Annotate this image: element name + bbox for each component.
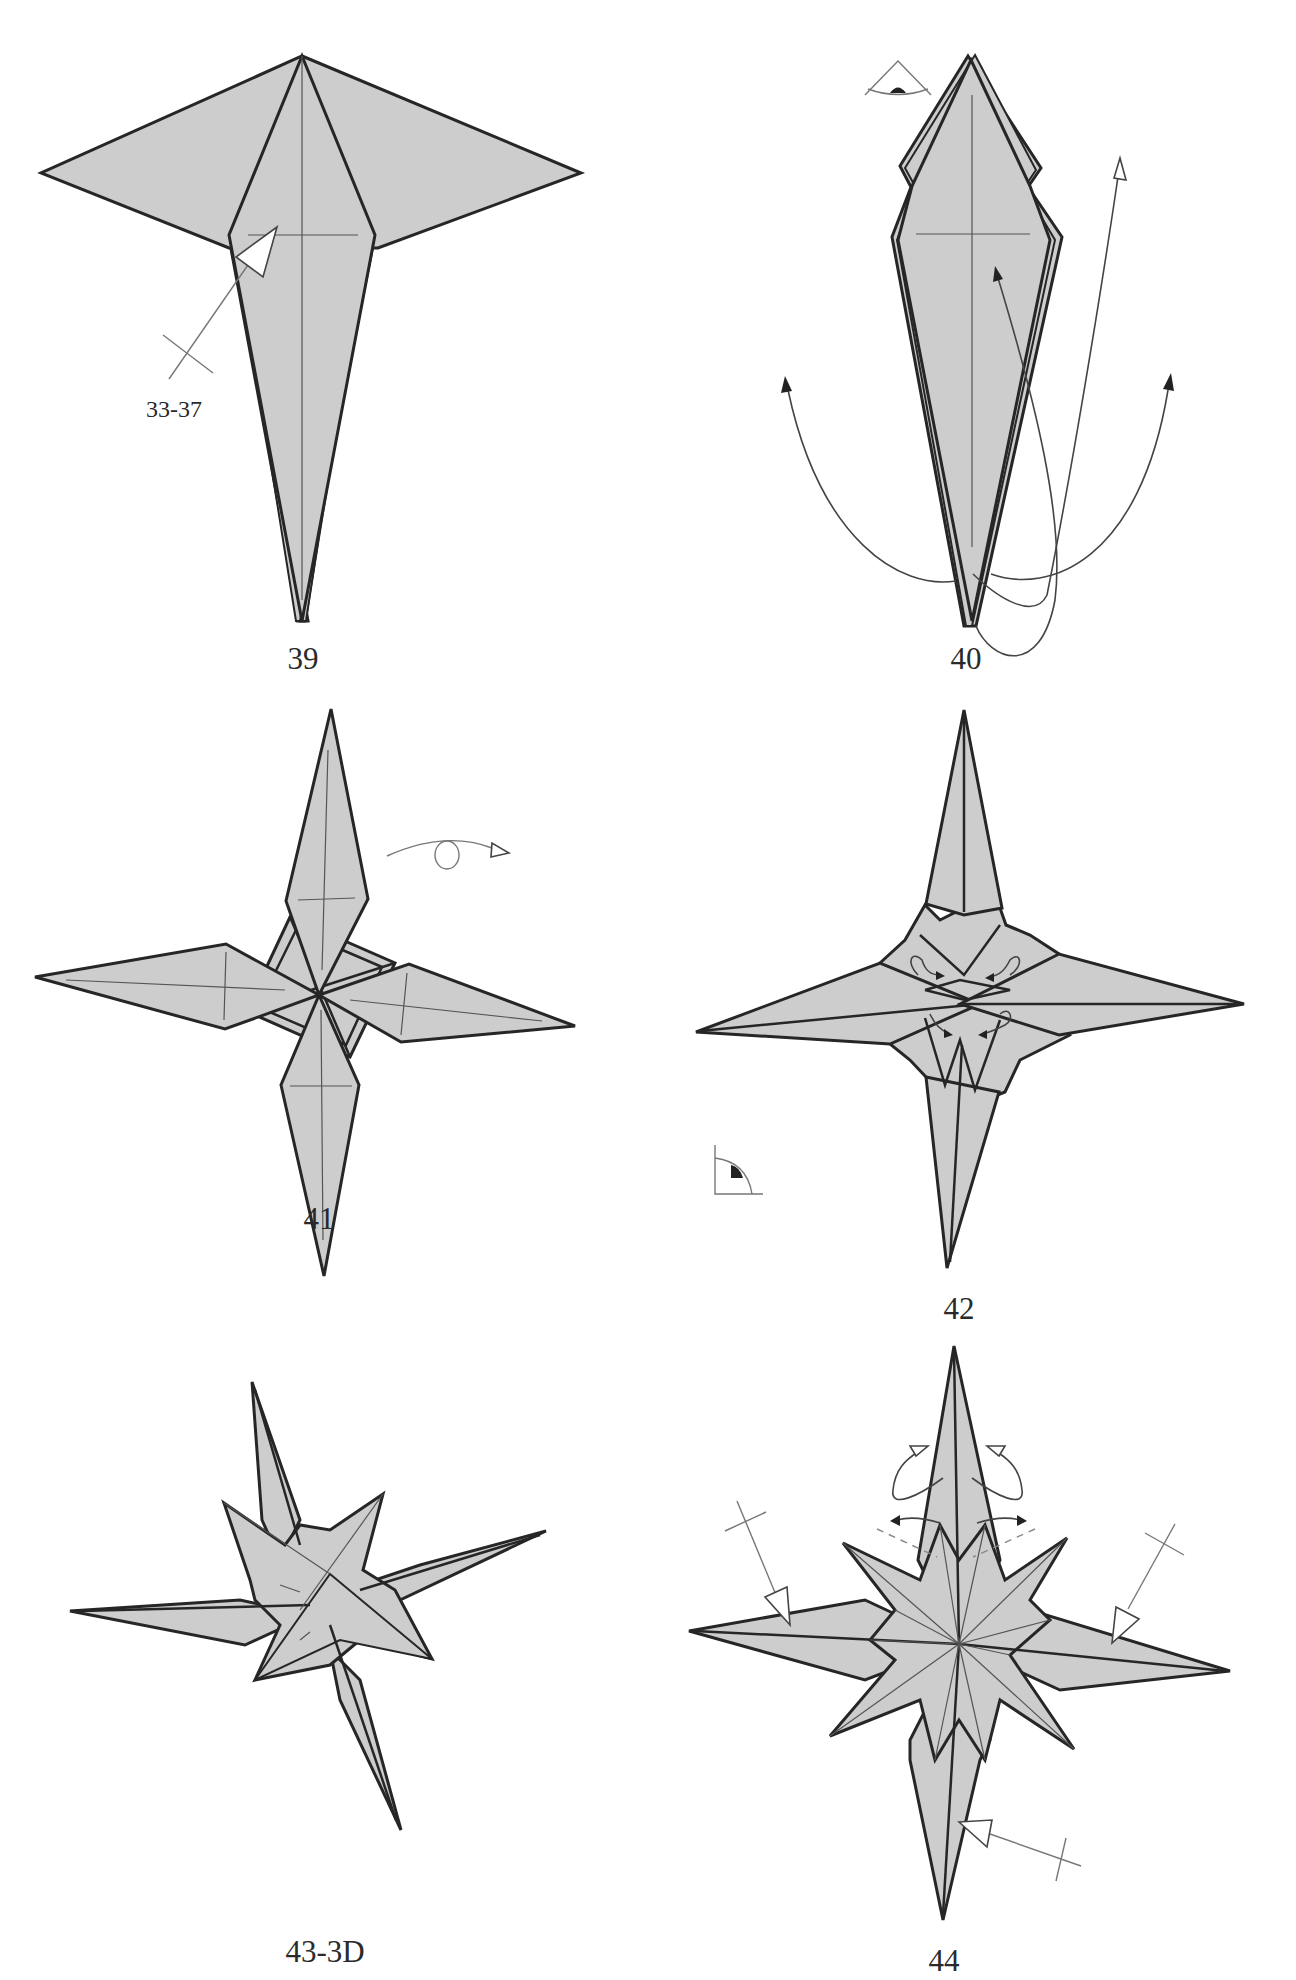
- step-number-43-3d: 43-3D: [285, 1936, 364, 1967]
- step-44-figure: [689, 1346, 1230, 1920]
- step-42-figure: [696, 710, 1244, 1268]
- step-number-39: 39: [288, 643, 319, 674]
- turn-over-arrow-icon: [387, 841, 509, 869]
- step-40-figure: [781, 55, 1174, 656]
- view-eye-icon: [865, 61, 931, 95]
- push-arrow-bottom-icon: [959, 1820, 1081, 1881]
- repeat-reference-label: 33-37: [146, 397, 202, 421]
- step-number-44: 44: [929, 1945, 960, 1976]
- step-number-40: 40: [951, 643, 982, 674]
- diagram-canvas: [0, 0, 1296, 1980]
- step-39-figure: [41, 56, 581, 621]
- step-number-41: 41: [304, 1203, 335, 1234]
- push-arrow-left-icon: [725, 1501, 790, 1625]
- push-arrow-right-icon: [1112, 1524, 1184, 1643]
- step-42-bottom-arm: [926, 1077, 999, 1268]
- step-43-figure: [70, 1382, 546, 1830]
- view-angle-icon: [715, 1145, 763, 1194]
- step-41-figure: [35, 709, 575, 1276]
- step-number-42: 42: [944, 1293, 975, 1324]
